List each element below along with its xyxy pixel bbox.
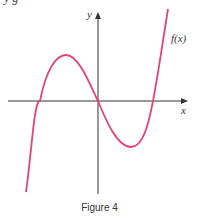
- graph: [0, 0, 199, 222]
- y-axis-label: y: [87, 8, 92, 20]
- x-axis-label: x: [181, 104, 186, 116]
- figure-caption: Figure 4: [0, 202, 199, 213]
- y-axis-arrow-icon: [95, 12, 101, 19]
- curve-label: f(x): [171, 32, 186, 44]
